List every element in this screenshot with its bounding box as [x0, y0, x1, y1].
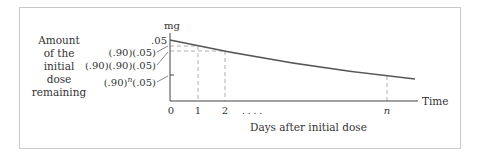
x-tick-label-2: 2 [222, 105, 228, 116]
x-tick-label-0: 0 [168, 105, 174, 116]
y-unit-label: mg [164, 20, 180, 31]
y-tick-label-2: (.90)(.90)(.05) [85, 60, 156, 71]
x-ellipsis: . . . . [242, 106, 262, 116]
y-tick-label-n: (.90)n(.05) [104, 75, 156, 88]
x-axis-name: Time [422, 95, 449, 107]
pointer-n [157, 76, 168, 82]
y-tick-label-0: .05 [151, 35, 167, 46]
decay-curve [170, 40, 415, 79]
chart-svg: mg .05 (.90)(.05) (.90)(.90)(.05) (.90)n… [0, 0, 486, 154]
x-tick-label-1: 1 [195, 105, 201, 116]
label-pointers [157, 46, 168, 82]
x-axis-label: Days after initial dose [250, 121, 367, 133]
pointer-2 [157, 52, 168, 65]
pointer-1 [157, 46, 168, 52]
y-tick-label-1: (.90)(.05) [109, 47, 157, 58]
guide-lines [170, 46, 387, 101]
x-tick-label-n: n [384, 105, 390, 116]
